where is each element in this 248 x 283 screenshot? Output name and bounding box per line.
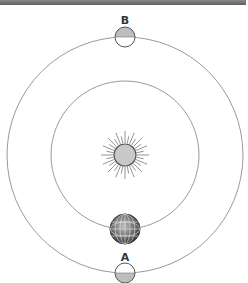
earth-icon — [110, 214, 140, 244]
moon-b-icon — [115, 27, 135, 47]
orbit-diagram: B A — [0, 0, 248, 283]
moon-a-icon — [115, 263, 135, 283]
sun-disc — [114, 144, 136, 166]
moon-a-label: A — [121, 251, 130, 264]
moon-b-label: B — [121, 14, 129, 27]
